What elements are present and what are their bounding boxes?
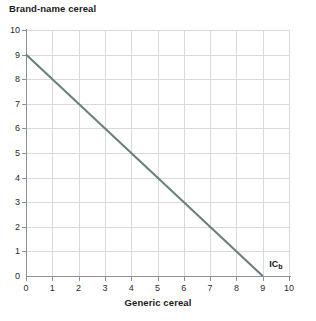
curve-label-subscript: b bbox=[278, 263, 282, 270]
y-axis-tick-label: 8 bbox=[15, 74, 20, 84]
x-axis-tick bbox=[79, 277, 80, 281]
y-axis-tick-label: 5 bbox=[15, 148, 20, 158]
y-axis-tick-label: 1 bbox=[15, 246, 20, 256]
x-axis-tick bbox=[236, 277, 237, 281]
x-axis-tick bbox=[184, 277, 185, 281]
x-axis-tick bbox=[263, 277, 264, 281]
x-axis-tick-label: 2 bbox=[76, 283, 81, 293]
x-axis-tick-label: 4 bbox=[129, 283, 134, 293]
y-axis-tick-label: 6 bbox=[15, 123, 20, 133]
y-axis-tick-label: 10 bbox=[10, 25, 20, 35]
data-series-layer bbox=[26, 30, 290, 277]
x-axis-tick-label: 7 bbox=[208, 283, 213, 293]
y-axis-tick-label: 7 bbox=[15, 99, 20, 109]
x-axis-tick bbox=[158, 277, 159, 281]
x-axis-tick-label: 10 bbox=[284, 283, 294, 293]
x-axis-tick-label: 3 bbox=[102, 283, 107, 293]
plot-area: 012345678910 012345678910 ICb bbox=[26, 30, 290, 277]
chart-figure: Brand-name cereal 012345678910 012345678… bbox=[0, 0, 316, 321]
x-axis-tick-label: 1 bbox=[50, 283, 55, 293]
x-axis-tick-label: 9 bbox=[260, 283, 265, 293]
y-axis-tick-label: 4 bbox=[15, 173, 20, 183]
x-axis-title: Generic cereal bbox=[0, 297, 316, 308]
data-line-ICb bbox=[26, 55, 263, 276]
curve-label-ICb: ICb bbox=[269, 260, 282, 269]
x-axis-tick bbox=[52, 277, 53, 281]
x-axis-tick-label: 8 bbox=[234, 283, 239, 293]
x-axis-tick-label: 6 bbox=[181, 283, 186, 293]
x-axis-tick bbox=[26, 277, 27, 281]
x-axis-tick bbox=[131, 277, 132, 281]
y-axis-tick-label: 0 bbox=[15, 271, 20, 281]
x-axis-tick bbox=[105, 277, 106, 281]
y-axis-tick-label: 9 bbox=[15, 50, 20, 60]
x-axis-tick bbox=[289, 277, 290, 281]
x-axis-tick bbox=[210, 277, 211, 281]
curve-label-text: IC bbox=[269, 259, 278, 269]
y-axis-title: Brand-name cereal bbox=[9, 3, 96, 14]
x-axis-tick-label: 0 bbox=[23, 283, 28, 293]
y-axis-tick-label: 2 bbox=[15, 222, 20, 232]
y-axis-tick-label: 3 bbox=[15, 197, 20, 207]
x-axis-tick-label: 5 bbox=[155, 283, 160, 293]
